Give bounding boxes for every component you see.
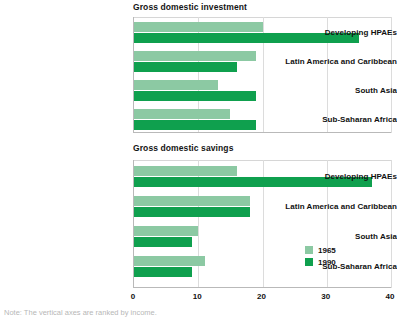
bar-1990 bbox=[134, 120, 256, 130]
category-label: Sub-Saharan Africa bbox=[269, 115, 397, 124]
bar-1990 bbox=[134, 237, 192, 247]
axis-line-bottom-savings bbox=[134, 287, 391, 288]
bar-1965 bbox=[134, 109, 230, 119]
legend-entry-1990: 1990 bbox=[305, 257, 336, 267]
bar-1965 bbox=[134, 51, 256, 61]
axis-line-top-savings bbox=[134, 160, 391, 161]
category-label: South Asia bbox=[269, 86, 397, 95]
chart-legend: 1965 1990 bbox=[305, 245, 336, 269]
bar-1990 bbox=[134, 267, 192, 277]
legend-swatch-1965-icon bbox=[305, 246, 313, 254]
panel-title-savings: Gross domestic savings bbox=[133, 143, 233, 153]
x-tick-30: 30 bbox=[321, 292, 330, 301]
legend-label-1965: 1965 bbox=[318, 246, 336, 255]
category-label: Latin America and Caribbean bbox=[269, 57, 397, 66]
x-tick-20: 20 bbox=[257, 292, 266, 301]
panel-gross-domestic-investment: Gross domestic investment Developing HPA… bbox=[0, 0, 397, 140]
legend-swatch-1990-icon bbox=[305, 258, 313, 266]
x-tick-40: 40 bbox=[386, 292, 395, 301]
category-label: Developing HPAEs bbox=[269, 172, 397, 181]
bar-1965 bbox=[134, 166, 237, 176]
axis-line-bottom-investment bbox=[134, 132, 391, 133]
bar-1990 bbox=[134, 207, 250, 217]
bar-1965 bbox=[134, 256, 205, 266]
figure-footnote: Note: The vertical axes are ranked by in… bbox=[4, 308, 157, 317]
x-tick-0: 0 bbox=[131, 292, 135, 301]
category-label: South Asia bbox=[269, 232, 397, 241]
x-tick-10: 10 bbox=[193, 292, 202, 301]
axis-line-top-investment bbox=[134, 17, 391, 18]
legend-entry-1965: 1965 bbox=[305, 245, 336, 255]
category-label: Latin America and Caribbean bbox=[269, 202, 397, 211]
panel-title-investment: Gross domestic investment bbox=[133, 2, 247, 12]
category-label: Developing HPAEs bbox=[269, 28, 397, 37]
bar-1965 bbox=[134, 196, 250, 206]
bar-1965 bbox=[134, 226, 198, 236]
legend-label-1990: 1990 bbox=[318, 258, 336, 267]
bar-1990 bbox=[134, 91, 256, 101]
bar-1990 bbox=[134, 62, 237, 72]
bar-1965 bbox=[134, 22, 263, 32]
bar-1965 bbox=[134, 80, 218, 90]
